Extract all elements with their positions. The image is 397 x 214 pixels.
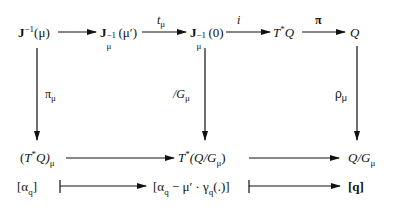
label-i: i xyxy=(237,14,240,26)
node-q-class: [q] xyxy=(348,180,364,193)
node-reduced-cotangent: (T*Q)μ xyxy=(20,151,55,164)
label-quotient-g-mu: /Gμ xyxy=(173,88,190,100)
node-j-inverse-mu: J−1(μ) xyxy=(18,26,50,39)
node-q: Q xyxy=(350,26,359,39)
node-jmu-inverse-muprime: J−1μ(μ′) xyxy=(100,26,137,39)
node-alpha-class: [αq] xyxy=(17,180,37,193)
node-shifted-alpha-class: [αq − μ′ · γq(.)] xyxy=(153,180,230,193)
node-quotient-space: Q/Gμ xyxy=(348,151,375,164)
label-pi: π xyxy=(315,14,322,26)
label-t-mu: tμ xyxy=(157,14,165,26)
node-cotangent-q: T*Q xyxy=(273,26,294,39)
node-cotangent-quotient: T*(Q/Gμ) xyxy=(178,151,226,164)
label-rho-mu: ρμ xyxy=(335,88,347,100)
label-pi-mu: πμ xyxy=(45,88,56,100)
node-jmu-inverse-zero: J−1μ(0) xyxy=(190,26,224,39)
